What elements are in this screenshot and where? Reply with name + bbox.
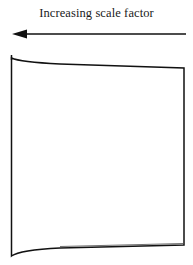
left-arrow-icon — [12, 30, 186, 39]
warped-square-shape — [12, 55, 185, 256]
diagram-canvas — [0, 0, 193, 265]
